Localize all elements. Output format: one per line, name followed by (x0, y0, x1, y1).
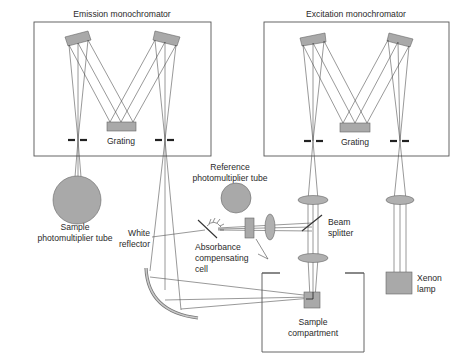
white-reflector-label-line2: reflector (119, 239, 150, 249)
excitation-upper-lens (298, 196, 328, 205)
excitation-monochromator-box (264, 22, 449, 156)
excitation-right-mirror (387, 33, 413, 47)
sample-pmt-label-line1: Sample (60, 222, 89, 232)
lamp-lens (386, 196, 414, 205)
xenon-lamp-label-line1: Xenon (417, 273, 442, 283)
reference-photomultiplier-tube (221, 183, 251, 213)
reference-lens (265, 214, 275, 240)
emission-grating-label: Grating (107, 136, 135, 146)
absorbance-cell-label-line2: compensating (195, 253, 249, 263)
absorbance-cell-label-line1: Absorbance (195, 242, 241, 252)
absorbance-cell-leader (256, 239, 268, 259)
excitation-monochromator-title: Excitation monochromator (306, 9, 406, 19)
beam-splitter-label-line2: splitter (328, 228, 353, 238)
sample-compartment-label-line2: compartment (288, 328, 339, 338)
fluorescence-spectrometer-diagram: Emission monochromator Grating (0, 0, 455, 364)
white-reflector-leader (152, 230, 205, 237)
emission-monochromator: Emission monochromator Grating (34, 9, 211, 310)
emission-grating (107, 122, 136, 131)
sample-photomultiplier-tube (53, 176, 101, 224)
beam-splitter-label-line1: Beam (328, 217, 350, 227)
reference-pmt-label-line1: Reference (210, 162, 250, 172)
sample-pmt-label-line2: photomultiplier tube (37, 233, 112, 243)
sample-compartment-label-line1: Sample (298, 317, 327, 327)
emission-return-rays (150, 277, 312, 309)
excitation-grating-label: Grating (341, 137, 369, 147)
reference-pmt-label-line2: photomultiplier tube (192, 173, 267, 183)
emission-monochromator-title: Emission monochromator (73, 9, 171, 19)
absorbance-cell-label-line3: cell (195, 264, 208, 274)
excitation-grating (340, 123, 370, 132)
xenon-lamp-label-line2: lamp (417, 284, 436, 294)
xenon-lamp (386, 272, 412, 294)
white-reflector-label-line1: White (128, 228, 150, 238)
emission-right-mirror (153, 31, 180, 46)
excitation-monochromator: Excitation monochromator Grating (264, 9, 449, 156)
emission-rays (69, 40, 181, 310)
absorbance-compensating-cell (245, 218, 254, 238)
sample-cuvette (304, 292, 320, 308)
excitation-lower-lens (298, 254, 328, 263)
